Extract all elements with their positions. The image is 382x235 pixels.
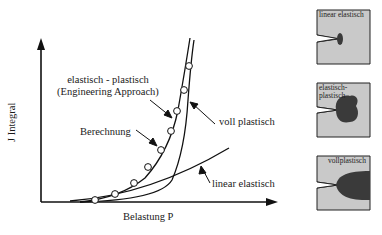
panel-linear-elastisch: linear elastisch bbox=[316, 9, 371, 65]
x-axis-arrow-icon bbox=[266, 198, 278, 206]
plastic-zone-small bbox=[337, 33, 343, 45]
panel-label: vollplastisch bbox=[328, 157, 366, 165]
arrow-voll-plastisch bbox=[193, 104, 215, 124]
label-voll-plastisch: voll plastisch bbox=[219, 116, 275, 128]
arrow-berechnung-head-icon bbox=[149, 138, 157, 146]
label-linear-elastisch: linear elastisch bbox=[212, 178, 275, 190]
label-ep-line1: elastisch - plastisch bbox=[48, 74, 168, 86]
y-axis-arrow-icon bbox=[37, 38, 45, 50]
y-axis-label: J Integral bbox=[6, 103, 17, 142]
label-ep-line2: (Engineering Approach) bbox=[48, 86, 168, 98]
label-ep: elastisch - plastisch (Engineering Appro… bbox=[48, 74, 168, 98]
panel-elastisch-plastisch: elastisch- plastisch bbox=[316, 82, 371, 138]
panel-label: linear elastisch bbox=[319, 11, 364, 19]
x-axis-label: Belastung P bbox=[123, 211, 173, 223]
label-berechnung: Berechnung bbox=[80, 126, 131, 138]
curve-voll-plastisch bbox=[80, 40, 194, 202]
panel-vollplastisch: vollplastisch bbox=[316, 155, 371, 211]
arrow-linear-elastisch-head-icon bbox=[199, 166, 206, 174]
arrow-ep-head-icon bbox=[164, 110, 172, 118]
j-integral-chart: elastisch - plastisch (Engineering Appro… bbox=[0, 0, 290, 235]
panel-label: elastisch- plastisch bbox=[319, 84, 347, 100]
